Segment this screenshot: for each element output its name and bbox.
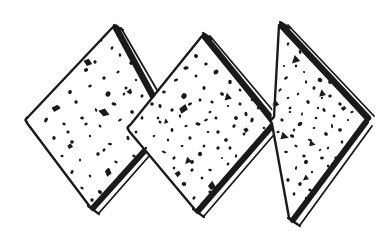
illustration-canvas: Three overlapping diamond crackers bbox=[0, 0, 392, 231]
diamond-crackers-drawing: Three overlapping diamond crackers bbox=[0, 0, 392, 231]
